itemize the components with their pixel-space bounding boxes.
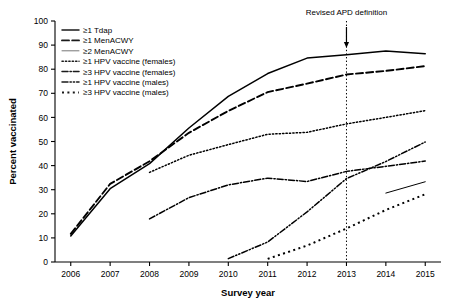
x-tick-label: 2010 bbox=[219, 269, 238, 279]
line-chart-svg: 0102030405060708090100200620072008200920… bbox=[0, 0, 460, 303]
x-tick-label: 2007 bbox=[101, 269, 120, 279]
y-tick-label: 90 bbox=[39, 40, 49, 50]
y-tick-label: 0 bbox=[43, 257, 48, 267]
legend-label-1: ≥1 MenACWY bbox=[83, 36, 134, 45]
axis-labels-group: Survey yearPercent vaccinated bbox=[7, 98, 275, 298]
x-axis-title: Survey year bbox=[221, 287, 275, 298]
legend-label-0: ≥1 Tdap bbox=[83, 26, 113, 35]
legend-label-2: ≥2 MenACWY bbox=[83, 47, 134, 56]
legend-label-6: ≥3 HPV vaccine (males) bbox=[83, 88, 169, 97]
y-axis-title: Percent vaccinated bbox=[7, 98, 18, 185]
y-tick-label: 10 bbox=[39, 233, 49, 243]
legend-label-5: ≥1 HPV vaccine (males) bbox=[83, 78, 169, 87]
x-tick-label: 2006 bbox=[61, 269, 80, 279]
y-tick-label: 60 bbox=[39, 113, 49, 123]
y-tick-label: 70 bbox=[39, 88, 49, 98]
series-line-2 bbox=[386, 182, 425, 193]
annotation-group: Revised APD definition bbox=[306, 8, 387, 262]
x-tick-label: 2008 bbox=[140, 269, 159, 279]
y-tick-label: 100 bbox=[34, 16, 48, 26]
y-tick-label: 20 bbox=[39, 209, 49, 219]
x-tick-label: 2009 bbox=[179, 269, 198, 279]
annotation-label: Revised APD definition bbox=[306, 8, 387, 17]
annotation-arrow-head bbox=[344, 42, 349, 48]
x-tick-label: 2012 bbox=[298, 269, 317, 279]
legend-group: ≥1 Tdap≥1 MenACWY≥2 MenACWY≥1 HPV vaccin… bbox=[62, 26, 176, 97]
y-tick-label: 40 bbox=[39, 161, 49, 171]
y-tick-label: 80 bbox=[39, 64, 49, 74]
legend-label-4: ≥3 HPV vaccine (females) bbox=[83, 68, 176, 77]
chart-figure: 0102030405060708090100200620072008200920… bbox=[0, 0, 460, 303]
y-tick-label: 30 bbox=[39, 185, 49, 195]
x-tick-label: 2015 bbox=[416, 269, 435, 279]
x-tick-label: 2014 bbox=[376, 269, 395, 279]
x-tick-label: 2011 bbox=[259, 269, 278, 279]
x-tick-label: 2013 bbox=[337, 269, 356, 279]
legend-label-3: ≥1 HPV vaccine (females) bbox=[83, 57, 176, 66]
series-line-5 bbox=[228, 142, 425, 259]
y-tick-label: 50 bbox=[39, 137, 49, 147]
